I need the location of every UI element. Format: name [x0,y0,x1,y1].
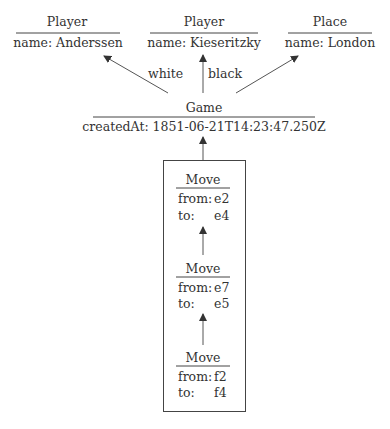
player-black-type: Player [184,15,224,29]
place-edge-arrow [236,56,298,93]
move3-type: Move [186,351,221,365]
move3-from: f2 [214,370,227,384]
move3-to: f4 [214,386,227,400]
move1-from-label: from: [178,192,212,206]
edge-label-white: white [148,67,183,81]
move2-to-label: to: [178,297,195,311]
move3-from-label: from: [178,370,212,384]
move1-to-label: to: [178,209,195,223]
move3-to-label: to: [178,386,195,400]
move2-type: Move [186,262,221,276]
place-type: Place [313,15,347,29]
move2-from-label: from: [178,281,212,295]
move1-from: e2 [214,192,229,206]
move1-to: e4 [214,209,229,223]
move2-from: e7 [214,281,229,295]
place-name: name: London [285,36,375,50]
move1-type: Move [186,173,221,187]
game-type: Game [186,101,223,115]
player-white-type: Player [47,15,87,29]
edge-label-black: black [208,67,242,81]
player-white-name: name: Anderssen [13,36,123,50]
player-black-name: name: Kieseritzky [147,36,261,50]
game-created-at: createdAt: 1851-06-21T14:23:47.250Z [82,120,325,134]
move2-to: e5 [214,297,229,311]
